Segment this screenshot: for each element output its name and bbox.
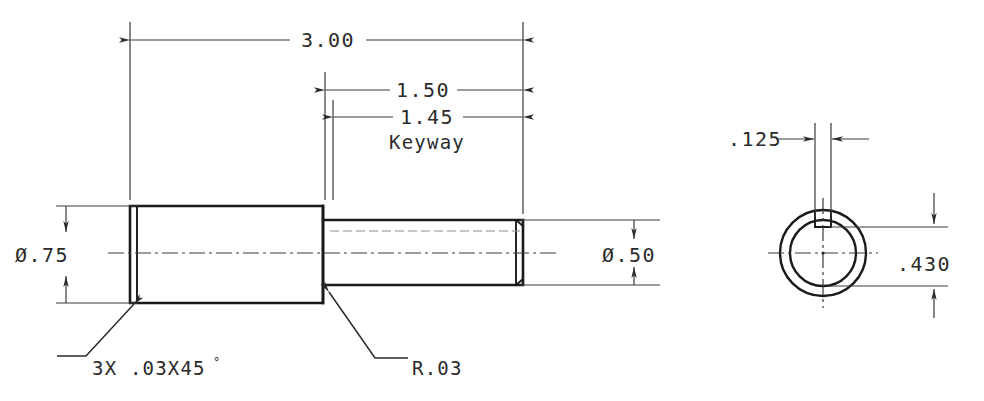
fillet-leader-line bbox=[329, 292, 408, 358]
drawing-svg-canvas: 3.00 1.50 1.45 Keyway Ø.75 bbox=[0, 0, 984, 401]
note-label-chamfer: 3X .03X45 bbox=[92, 357, 206, 379]
dim-label-overall-length: 3.00 bbox=[301, 28, 355, 52]
dim-label-small-diameter: Ø.50 bbox=[602, 243, 656, 267]
front-view-geometry bbox=[108, 206, 560, 303]
dimension-large-diameter: Ø.75 bbox=[15, 206, 138, 303]
dim-label-large-diameter: Ø.75 bbox=[15, 243, 69, 267]
dimension-keyway-depth: .430 bbox=[828, 193, 951, 318]
dimension-overall-length: 3.00 bbox=[130, 22, 523, 214]
chamfer-leader-line bbox=[57, 304, 134, 356]
note-fillet-radius: R.03 bbox=[329, 292, 463, 379]
note-label-chamfer-degree: ° bbox=[213, 355, 220, 369]
large-cylinder-outline bbox=[130, 206, 323, 303]
dimension-keyway-length: 1.45 Keyway bbox=[333, 100, 523, 200]
end-view-center-mark bbox=[821, 251, 824, 254]
dim-label-shoulder-to-end: 1.50 bbox=[396, 78, 450, 102]
note-chamfer: 3X .03X45 ° bbox=[57, 304, 220, 379]
end-view-geometry bbox=[768, 198, 878, 308]
dim-label-keyway-width: .125 bbox=[728, 127, 782, 151]
technical-drawing-canvas: 3.00 1.50 1.45 Keyway Ø.75 bbox=[0, 0, 984, 401]
dim-label-keyway-note: Keyway bbox=[389, 131, 465, 153]
dim-label-keyway-length: 1.45 bbox=[400, 105, 454, 129]
dimension-keyway-width: .125 bbox=[728, 123, 869, 216]
dim-label-keyway-depth: .430 bbox=[897, 252, 951, 276]
note-label-fillet-radius: R.03 bbox=[412, 357, 463, 379]
